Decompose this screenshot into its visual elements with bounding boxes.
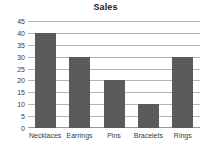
plot-area bbox=[28, 21, 200, 128]
y-tick-label: 40 bbox=[0, 29, 25, 36]
y-tick-label: 5 bbox=[0, 113, 25, 120]
bar bbox=[172, 57, 193, 128]
bar bbox=[35, 33, 56, 128]
y-tick-label: 0 bbox=[0, 125, 25, 132]
y-axis: 051015202530354045 bbox=[0, 21, 25, 128]
bars-group bbox=[28, 21, 200, 128]
y-tick-label: 45 bbox=[0, 18, 25, 25]
bar bbox=[104, 80, 125, 128]
y-tick-label: 10 bbox=[0, 101, 25, 108]
x-tick-label: Bracelets bbox=[131, 131, 165, 140]
y-tick-label: 30 bbox=[0, 53, 25, 60]
y-tick-label: 15 bbox=[0, 89, 25, 96]
chart-title: Sales bbox=[0, 1, 211, 13]
y-tick-label: 25 bbox=[0, 65, 25, 72]
bar bbox=[138, 104, 159, 128]
y-tick-label: 35 bbox=[0, 41, 25, 48]
bar-chart: Sales 051015202530354045 NecklacesEarrin… bbox=[0, 0, 211, 153]
x-tick-label: Rings bbox=[166, 131, 200, 140]
y-tick-label: 20 bbox=[0, 77, 25, 84]
x-tick-label: Necklaces bbox=[28, 131, 62, 140]
x-tick-label: Pins bbox=[97, 131, 131, 140]
x-tick-label: Earrings bbox=[62, 131, 96, 140]
bar bbox=[69, 57, 90, 128]
x-axis: NecklacesEarringsPinsBraceletsRings bbox=[28, 131, 200, 145]
